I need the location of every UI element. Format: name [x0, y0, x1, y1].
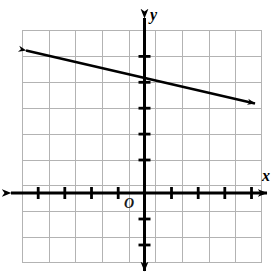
x-axis-label: x: [261, 167, 270, 184]
coordinate-plane-figure: x y O: [0, 0, 275, 278]
grid-background: [22, 30, 262, 263]
coordinate-plane-svg: x y O: [0, 0, 275, 278]
origin-label: O: [124, 196, 134, 211]
y-axis-label: y: [148, 6, 158, 24]
